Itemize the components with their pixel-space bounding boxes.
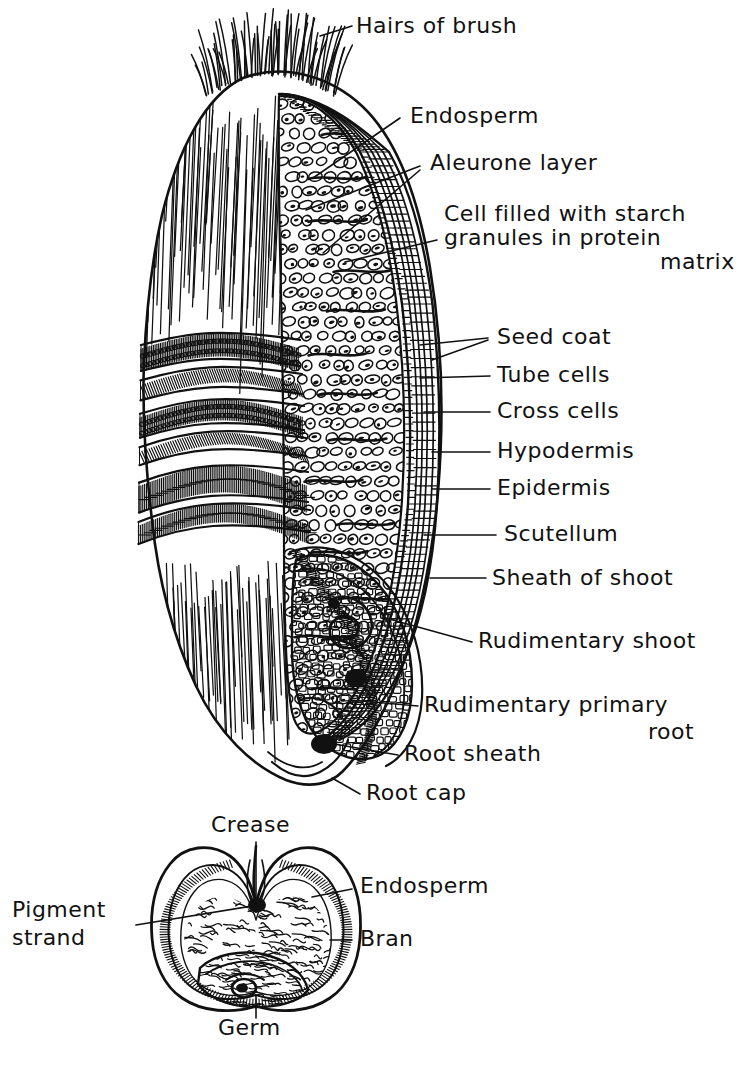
label-germ: Germ bbox=[218, 1015, 281, 1040]
label-crease: Crease bbox=[211, 812, 290, 837]
label-epidermis: Epidermis bbox=[497, 475, 611, 500]
label-rudimentary-root-l1: Rudimentary primary bbox=[424, 692, 668, 717]
label-bran: Bran bbox=[360, 926, 414, 951]
label-cross-cells: Cross cells bbox=[497, 398, 619, 423]
label-pigment-l2: strand bbox=[12, 925, 86, 950]
label-scutellum: Scutellum bbox=[504, 521, 618, 546]
label-root-sheath: Root sheath bbox=[404, 741, 541, 766]
label-seed-coat: Seed coat bbox=[497, 324, 611, 349]
wheat-kernel-figure: Hairs of brushEndospermAleurone layerCel… bbox=[0, 0, 753, 1065]
label-rudimentary-shoot: Rudimentary shoot bbox=[478, 628, 696, 653]
label-hypodermis: Hypodermis bbox=[497, 438, 634, 463]
label-aleurone-layer: Aleurone layer bbox=[430, 150, 598, 175]
label-tube-cells: Tube cells bbox=[496, 362, 610, 387]
figure-canvas: Hairs of brushEndospermAleurone layerCel… bbox=[0, 0, 753, 1065]
label-pigment-l1: Pigment bbox=[12, 897, 106, 922]
label-cell-starch-line2: granules in protein bbox=[444, 225, 661, 250]
label-endosperm: Endosperm bbox=[410, 103, 539, 128]
label-cell-starch-line3: matrix bbox=[660, 249, 735, 274]
label-endosperm-cs: Endosperm bbox=[360, 873, 489, 898]
label-hairs-of-brush: Hairs of brush bbox=[356, 13, 517, 38]
label-cell-starch-line1: Cell filled with starch bbox=[444, 201, 686, 226]
label-root-cap: Root cap bbox=[366, 780, 466, 805]
label-rudimentary-root-l2: root bbox=[648, 719, 694, 744]
label-sheath-of-shoot: Sheath of shoot bbox=[492, 565, 673, 590]
